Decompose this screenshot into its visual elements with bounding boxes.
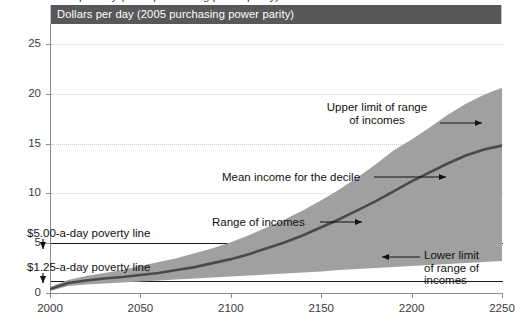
annotation-poverty-500-line-1: $5.00-a-day poverty line: [27, 227, 150, 240]
annotation-poverty-125: $1.25-a-day poverty line: [27, 261, 150, 274]
x-axis-tick: [140, 293, 141, 298]
x-axis-tick: [321, 293, 322, 298]
annotation-upper-limit-line-1: Upper limit of range: [318, 101, 436, 114]
annotation-upper-limit-line-2: of incomes: [318, 114, 436, 127]
y-gridline: [51, 193, 503, 194]
leader-poverty-125-head: [40, 276, 46, 283]
x-axis-tick: [412, 293, 413, 298]
y-axis-label: 0: [35, 286, 41, 298]
x-axis-tick: [50, 293, 51, 298]
y-axis-tick: [46, 144, 51, 145]
x-axis-label: 2200: [382, 302, 442, 314]
chart-title-bar: Dollars per day (2005 purchasing power p…: [50, 5, 502, 24]
annotation-poverty-125-line-1: $1.25-a-day poverty line: [27, 261, 150, 274]
annotation-lower-limit-line-2: of range of: [424, 262, 479, 275]
y-gridline: [51, 94, 503, 95]
annotation-mean-income-line-1: Mean income for the decile: [222, 171, 360, 184]
annotation-range-of-incomes-line-1: Range of incomes: [212, 216, 305, 229]
x-axis-label: 2000: [20, 302, 80, 314]
x-axis-tick: [231, 293, 232, 298]
poverty-line-5-dollar: [51, 243, 503, 244]
y-axis-tick: [46, 44, 51, 45]
y-axis-label: 15: [28, 137, 41, 149]
annotation-lower-limit: Lower limitof range ofincomes: [424, 249, 479, 287]
x-axis-tick: [502, 293, 503, 298]
annotation-range-of-incomes: Range of incomes: [212, 216, 305, 229]
y-axis-label: 10: [28, 186, 41, 198]
x-axis-label: 2050: [110, 302, 170, 314]
x-axis-label: 2250: [472, 302, 520, 314]
y-gridline: [51, 144, 503, 145]
y-axis-tick: [46, 94, 51, 95]
y-axis-label: 20: [28, 87, 41, 99]
clipped-header-label: Dollars per day (2005 purchasing power p…: [40, 0, 279, 2]
x-axis-label: 2150: [291, 302, 351, 314]
annotation-poverty-500: $5.00-a-day poverty line: [27, 227, 150, 240]
page-title: Dollars per day (2005 purchasing power p…: [57, 8, 294, 20]
annotation-lower-limit-line-3: incomes: [424, 274, 479, 287]
y-gridline: [51, 44, 503, 45]
annotation-mean-income: Mean income for the decile: [222, 171, 360, 184]
annotation-upper-limit: Upper limit of rangeof incomes: [318, 101, 436, 126]
x-axis-label: 2100: [201, 302, 261, 314]
annotation-lower-limit-line-1: Lower limit: [424, 249, 479, 262]
y-axis-tick: [46, 193, 51, 194]
x-axis-line: [50, 293, 502, 294]
y-axis-label: 25: [28, 37, 41, 49]
